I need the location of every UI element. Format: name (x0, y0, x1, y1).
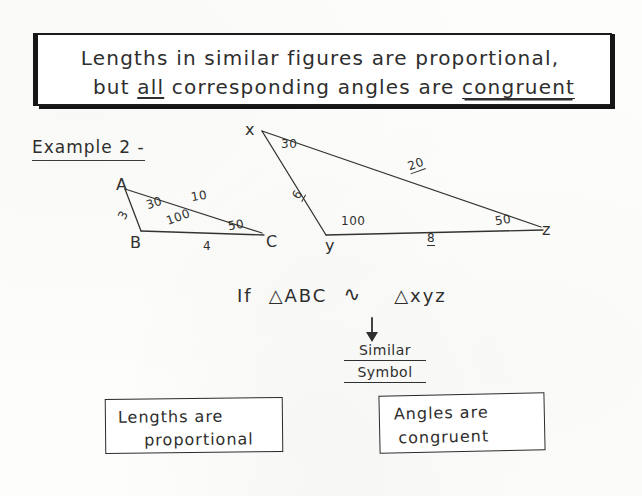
header-emph-all: all (137, 75, 164, 99)
angles-box-line-1: Angles are (394, 402, 489, 423)
vertex-label-c: C (266, 234, 278, 250)
triangle-abc-name: ABC (285, 285, 328, 306)
side-label-xz-20: 20 (406, 156, 426, 175)
header-emph-congruent: congruent (462, 77, 575, 99)
side-label-xy-6: 6 (290, 188, 306, 202)
header-line-2: but all corresponding angles are congrue… (48, 77, 620, 99)
similarity-statement: If△ABC∿△xyz (237, 283, 447, 307)
header-line-2-middle: corresponding angles are (164, 75, 462, 99)
worksheet-page: Lengths in similar figures are proportio… (0, 0, 642, 496)
vertex-label-a: A (116, 177, 127, 193)
angle-label-z-50: 50 (494, 213, 512, 228)
header-banner: Lengths in similar figures are proportio… (36, 33, 612, 106)
vertex-label-y: y (325, 238, 335, 254)
triangle-xyz-name: xyz (410, 285, 447, 306)
side-label-ab-3: 3 (116, 209, 130, 222)
example-label: Example 2 - (32, 137, 145, 161)
lengths-box-line-2: proportional (144, 429, 254, 449)
banner-left-edge (33, 33, 38, 106)
angle-label-b-100: 100 (165, 207, 192, 227)
triangle-symbol-right: △ (394, 285, 410, 306)
side-label-bc-4: 4 (203, 240, 211, 252)
if-word: If (237, 285, 253, 306)
note-line-1: Similar (344, 341, 426, 361)
lengths-box-line-1: Lengths are (118, 407, 224, 427)
vertex-label-x: x (245, 122, 255, 138)
angle-label-y-100: 100 (341, 215, 365, 227)
angle-label-a-30: 30 (145, 195, 164, 211)
similar-symbol: ∿ (343, 282, 362, 306)
note-line-2: Symbol (344, 363, 426, 383)
triangle-symbol-left: △ (269, 285, 285, 306)
header-line-2-before: but (93, 75, 137, 99)
lengths-conclusion-box: Lengths are proportional (105, 397, 284, 454)
angle-label-x-30: 30 (281, 138, 297, 150)
angles-box-line-2: congruent (398, 426, 489, 447)
side-label-yz-8: 8 (427, 232, 435, 246)
arrow-down-icon (366, 318, 378, 342)
vertex-label-b: B (130, 235, 141, 251)
header-line-1: Lengths in similar figures are proportio… (34, 48, 606, 68)
side-label-ac-10: 10 (190, 189, 208, 204)
vertex-label-z: z (542, 222, 551, 238)
similar-symbol-note: Similar Symbol (344, 341, 426, 385)
angles-conclusion-box: Angles are congruent (378, 392, 545, 453)
angle-label-c-50: 50 (227, 218, 245, 233)
